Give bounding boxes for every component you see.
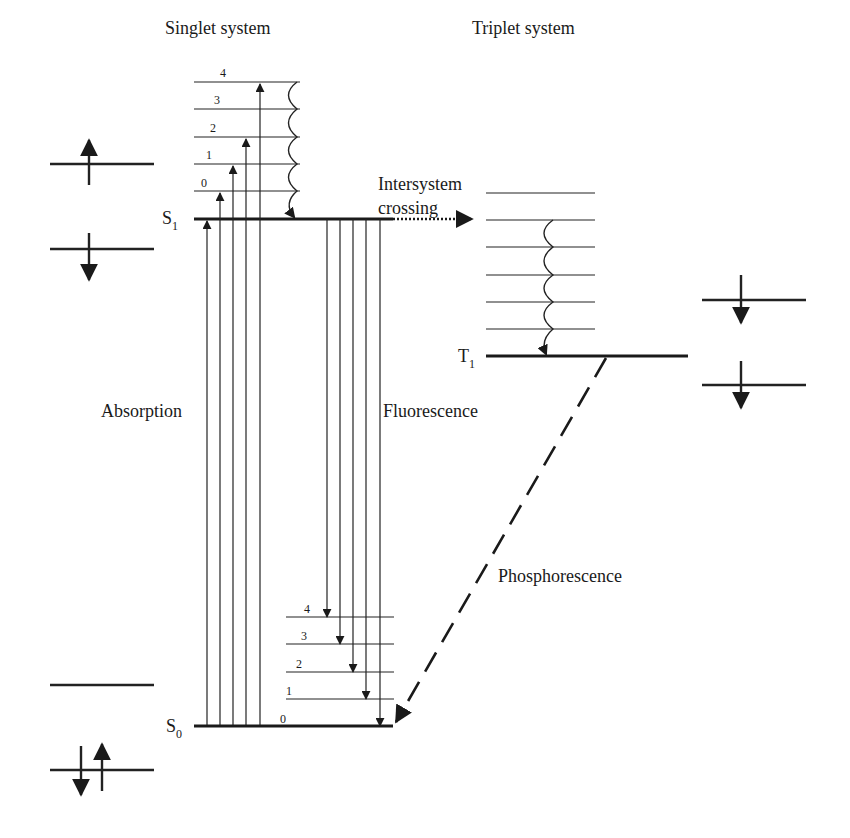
jablonski-diagram: Singlet system Triplet system 4 3 2 1 0 … — [0, 0, 850, 838]
singlet-system-header: Singlet system — [165, 18, 271, 38]
s1-vibrational-relaxation-wavy-arrow — [289, 82, 298, 217]
triplet-vibrational-relaxation-wavy-arrow — [544, 220, 553, 354]
isc-label-line2: crossing — [378, 198, 438, 218]
s0-vibrational-levels: 4 3 2 1 0 — [280, 602, 394, 726]
isc-label-line1: Intersystem — [378, 174, 462, 194]
s1-label: S1 — [162, 208, 178, 233]
s0-label: S0 — [166, 716, 182, 741]
s0-level-3-label: 3 — [301, 629, 307, 643]
t1-label: T1 — [458, 346, 475, 371]
s0-level-2-label: 2 — [296, 657, 302, 671]
s1-vibrational-levels: 4 3 2 1 0 — [194, 66, 300, 191]
s0-level-4-label: 4 — [304, 602, 310, 616]
s1-level-1-label: 1 — [206, 148, 212, 162]
fluorescence-arrows — [327, 219, 380, 726]
absorption-label: Absorption — [101, 401, 182, 421]
spin-panel-ground — [50, 685, 154, 795]
phosphorescence-label: Phosphorescence — [498, 566, 622, 586]
absorption-arrows — [207, 84, 260, 727]
triplet-vibrational-levels — [486, 193, 595, 329]
s0-level-0-label: 0 — [280, 712, 286, 726]
triplet-system-header: Triplet system — [472, 18, 575, 38]
spin-panel-triplet — [702, 275, 806, 408]
s1-level-4-label: 4 — [220, 66, 226, 80]
s1-level-3-label: 3 — [214, 93, 220, 107]
s1-level-2-label: 2 — [210, 121, 216, 135]
s0-level-1-label: 1 — [286, 684, 292, 698]
spin-panel-excited — [50, 140, 154, 280]
s1-level-0-label: 0 — [201, 176, 207, 190]
fluorescence-label: Fluorescence — [383, 401, 478, 421]
